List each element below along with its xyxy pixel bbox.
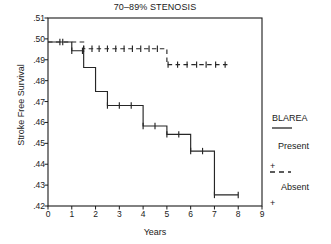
legend-censor-plus-present: + [270,162,275,171]
legend-censor-plus-absent: + [270,199,275,208]
legend-label-absent: Absent [281,182,309,192]
legend-header: BLAREA [272,113,308,123]
series-line [48,42,229,65]
legend-label-present: Present [278,141,309,151]
series-present [48,39,238,198]
plot-frame [48,18,262,206]
series-absent [48,42,229,68]
kaplan-meier-figure: 70–89% STENOSIS Stroke Free Survival Yea… [0,0,331,244]
